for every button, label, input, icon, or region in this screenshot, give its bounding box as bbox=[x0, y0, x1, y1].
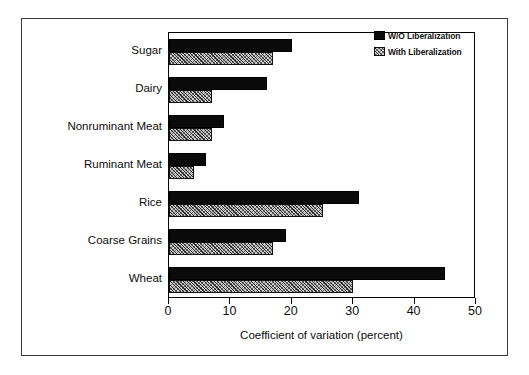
x-tick-label-30: 30 bbox=[332, 305, 372, 318]
bar-coarse-grains-wo-liberalization bbox=[169, 229, 286, 242]
legend-item-with-liberalization: With Liberalization bbox=[374, 46, 474, 59]
bar-ruminant-meat-wo-liberalization bbox=[169, 153, 206, 166]
y-axis-label-dairy: Dairy bbox=[18, 83, 162, 95]
legend-item-wo-liberalization: W/O Liberalization bbox=[374, 30, 474, 43]
x-tick-label-40: 40 bbox=[394, 305, 434, 318]
bar-ruminant-meat-with-liberalization bbox=[169, 166, 194, 179]
bar-nonruminant-meat-with-liberalization bbox=[169, 128, 212, 141]
x-tick-label-50: 50 bbox=[455, 305, 495, 318]
plot-area bbox=[168, 32, 475, 298]
bar-dairy-wo-liberalization bbox=[169, 77, 267, 90]
y-axis-label-nonruminant-meat: Nonruminant Meat bbox=[18, 121, 162, 133]
legend-label-with-liberalization: With Liberalization bbox=[388, 46, 462, 59]
bar-dairy-with-liberalization bbox=[169, 90, 212, 103]
y-axis-label-coarse-grains: Coarse Grains bbox=[18, 235, 162, 247]
chart-figure: SugarDairyNonruminant MeatRuminant MeatR… bbox=[0, 0, 529, 375]
x-tick-label-20: 20 bbox=[271, 305, 311, 318]
y-axis-label-sugar: Sugar bbox=[18, 45, 162, 57]
bar-group bbox=[169, 71, 474, 109]
legend-swatch-hatch-icon bbox=[374, 47, 385, 56]
chart-legend: W/O Liberalization With Liberalization bbox=[374, 30, 474, 62]
bar-group bbox=[169, 147, 474, 185]
y-axis-label-rice: Rice bbox=[18, 197, 162, 209]
bar-rice-wo-liberalization bbox=[169, 191, 359, 204]
bar-group bbox=[169, 185, 474, 223]
x-tick-label-0: 0 bbox=[148, 305, 188, 318]
legend-label-wo-liberalization: W/O Liberalization bbox=[388, 30, 460, 43]
bar-group bbox=[169, 261, 474, 299]
bar-group bbox=[169, 223, 474, 261]
bar-wheat-with-liberalization bbox=[169, 280, 353, 293]
bar-sugar-wo-liberalization bbox=[169, 39, 292, 52]
bar-sugar-with-liberalization bbox=[169, 52, 273, 65]
y-axis-label-wheat: Wheat bbox=[18, 273, 162, 285]
legend-swatch-solid-icon bbox=[374, 31, 385, 40]
x-tick-label-10: 10 bbox=[209, 305, 249, 318]
x-axis-title: Coefficient of variation (percent) bbox=[168, 330, 475, 342]
bar-rice-with-liberalization bbox=[169, 204, 323, 217]
bar-nonruminant-meat-wo-liberalization bbox=[169, 115, 224, 128]
y-axis-label-ruminant-meat: Ruminant Meat bbox=[18, 159, 162, 171]
bar-group bbox=[169, 109, 474, 147]
bar-wheat-wo-liberalization bbox=[169, 267, 445, 280]
bar-coarse-grains-with-liberalization bbox=[169, 242, 273, 255]
